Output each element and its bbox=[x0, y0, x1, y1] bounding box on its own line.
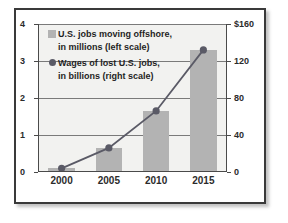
left-tick-label-4: 4 bbox=[20, 19, 25, 29]
line-marker-2005 bbox=[105, 144, 112, 151]
right-tick-label-80: 80 bbox=[234, 93, 244, 103]
right-tick-label-160: $160 bbox=[234, 19, 254, 29]
right-tick-label-40: 40 bbox=[234, 130, 244, 140]
x-tick-label-2010: 2010 bbox=[145, 175, 167, 186]
x-tick-label-2015: 2015 bbox=[192, 175, 214, 186]
right-tick-label-0: 0 bbox=[234, 167, 239, 177]
left-tick-label-3: 3 bbox=[20, 56, 25, 66]
x-tick-label-2000: 2000 bbox=[51, 175, 73, 186]
left-tick-label-2: 2 bbox=[20, 93, 25, 103]
right-tick bbox=[227, 98, 231, 99]
chart-legend: U.S. jobs moving offshore, in millions (… bbox=[46, 28, 172, 82]
right-tick bbox=[227, 135, 231, 136]
legend-item-bars-line1: U.S. jobs moving offshore, bbox=[58, 28, 172, 40]
right-tick bbox=[227, 172, 231, 173]
legend-item-line-line1: Wages of lost U.S. jobs, bbox=[58, 57, 160, 69]
left-tick-label-0: 0 bbox=[20, 167, 25, 177]
left-tick bbox=[34, 172, 38, 173]
left-tick bbox=[34, 24, 38, 25]
legend-item-bars: U.S. jobs moving offshore, bbox=[46, 28, 172, 40]
right-tick bbox=[227, 61, 231, 62]
x-tick-label-2005: 2005 bbox=[98, 175, 120, 186]
left-axis-line bbox=[38, 24, 39, 172]
left-tick bbox=[34, 135, 38, 136]
chart-figure: U.S. jobs moving offshore, in millions (… bbox=[14, 8, 266, 204]
legend-item-line-line2: in billions (right scale) bbox=[58, 70, 172, 82]
right-tick-label-120: 120 bbox=[234, 56, 249, 66]
square-swatch-icon bbox=[46, 28, 58, 38]
left-tick bbox=[34, 98, 38, 99]
legend-item-line: Wages of lost U.S. jobs, bbox=[46, 57, 172, 69]
right-tick bbox=[227, 24, 231, 25]
line-marker-2015 bbox=[200, 46, 207, 53]
left-tick bbox=[34, 61, 38, 62]
legend-item-bars-line2: in millions (left scale) bbox=[58, 41, 172, 53]
bottom-axis-line bbox=[38, 171, 227, 172]
circle-marker-icon bbox=[46, 57, 58, 66]
plot-area: U.S. jobs moving offshore, in millions (… bbox=[38, 24, 227, 172]
left-tick-label-1: 1 bbox=[20, 130, 25, 140]
line-marker-2010 bbox=[153, 107, 160, 114]
